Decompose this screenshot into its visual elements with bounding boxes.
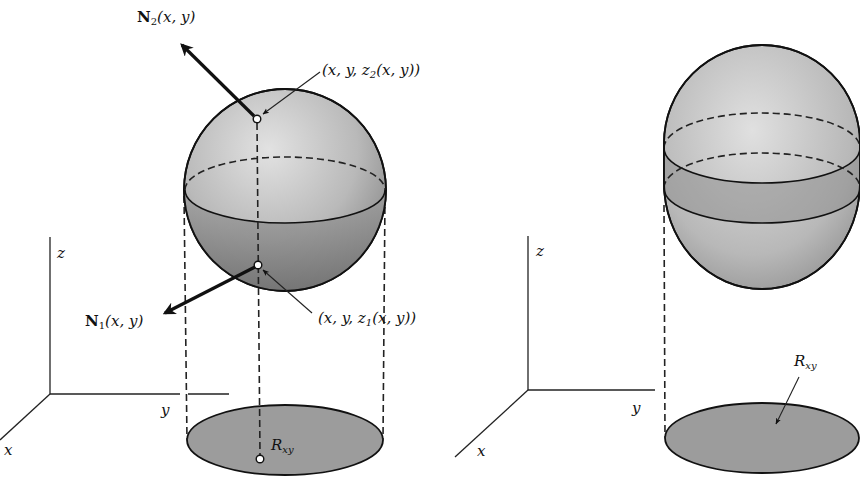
capsule-surface	[664, 45, 860, 289]
right-axes: z y x	[455, 236, 655, 460]
region-rxy-disk	[187, 405, 383, 475]
region-rxy-disk	[665, 403, 859, 473]
normal-n1-label: N1(x, y)	[85, 312, 143, 331]
x-axis	[0, 394, 50, 440]
surface-projection-diagram: z y x N2(x	[0, 0, 860, 504]
z-axis-label: z	[535, 242, 544, 260]
point-bottom-marker	[254, 261, 262, 269]
right-panel: z y x Rxy	[455, 45, 860, 473]
point-top-marker	[253, 115, 261, 123]
left-panel: z y x N2(x	[0, 8, 420, 475]
region-rxy-label: Rxy	[793, 352, 817, 371]
y-axis-label: y	[631, 399, 641, 417]
projection-line-left	[664, 205, 665, 438]
x-axis-label: x	[4, 441, 13, 459]
x-axis-label: x	[477, 442, 486, 460]
point-region-marker	[256, 455, 264, 463]
x-axis	[455, 390, 528, 457]
sphere	[184, 89, 386, 291]
point-top-label: (x, y, z2(x, y))	[322, 61, 420, 80]
point-bottom-label: (x, y, z1(x, y))	[318, 309, 416, 328]
z-axis-label: z	[56, 244, 65, 262]
projection-line-left	[184, 196, 187, 440]
normal-n2-arrow	[182, 45, 254, 116]
normal-n2-label: N2(x, y)	[137, 8, 195, 27]
y-axis-label: y	[160, 401, 170, 419]
normal-n1-arrow	[165, 267, 255, 313]
